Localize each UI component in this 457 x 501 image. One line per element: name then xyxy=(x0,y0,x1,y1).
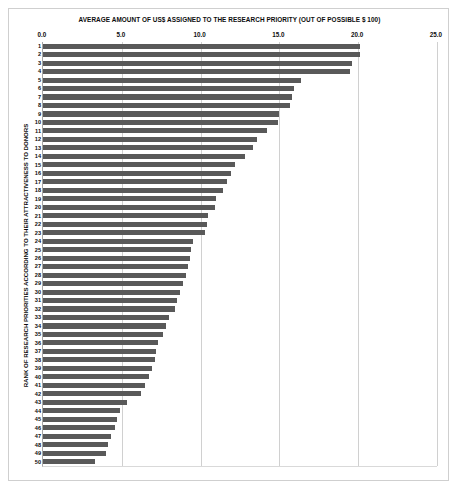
y-tick-label: 14 xyxy=(12,152,41,160)
bar xyxy=(43,349,156,354)
y-tick-label: 11 xyxy=(12,127,41,135)
y-tick-label: 32 xyxy=(12,305,41,313)
bar xyxy=(43,128,267,133)
x-tick-label: 15.0 xyxy=(272,31,284,38)
y-tick-label: 17 xyxy=(12,178,41,186)
bar xyxy=(43,290,180,295)
bar xyxy=(43,374,149,379)
y-tick-label: 6 xyxy=(12,84,41,92)
bar-row xyxy=(43,322,437,330)
plot-area: 1234567891011121314151617181920212223242… xyxy=(42,42,437,467)
y-tick-label: 46 xyxy=(12,424,41,432)
bar xyxy=(43,52,360,57)
bar xyxy=(43,94,292,99)
bar-row xyxy=(43,279,437,287)
bar xyxy=(43,332,163,337)
y-tick-label: 23 xyxy=(12,229,41,237)
bar xyxy=(43,162,235,167)
y-tick-label: 8 xyxy=(12,101,41,109)
bar-row xyxy=(43,135,437,143)
y-tick-label: 15 xyxy=(12,161,41,169)
y-tick-label: 12 xyxy=(12,135,41,143)
bar-row xyxy=(43,458,437,466)
y-tick-label: 42 xyxy=(12,390,41,398)
bar-row xyxy=(43,364,437,372)
bar-row xyxy=(43,415,437,423)
bar xyxy=(43,230,205,235)
bar-row xyxy=(43,195,437,203)
bar xyxy=(43,69,350,74)
bar xyxy=(43,408,120,413)
y-tick-label: 19 xyxy=(12,195,41,203)
y-tick-label: 49 xyxy=(12,449,41,457)
bar xyxy=(43,78,301,83)
y-tick-label: 5 xyxy=(12,76,41,84)
y-tick-label: 18 xyxy=(12,186,41,194)
bar xyxy=(43,417,117,422)
bar xyxy=(43,247,191,252)
bar-row xyxy=(43,59,437,67)
bar-row xyxy=(43,449,437,457)
y-tick-label: 34 xyxy=(12,322,41,330)
bar xyxy=(43,86,294,91)
y-tick-label: 7 xyxy=(12,93,41,101)
bar-row xyxy=(43,432,437,440)
bar xyxy=(43,213,208,218)
y-tick-label: 40 xyxy=(12,373,41,381)
bar-row xyxy=(43,67,437,75)
y-tick-label: 27 xyxy=(12,262,41,270)
y-tick-label: 43 xyxy=(12,398,41,406)
bar-row xyxy=(43,330,437,338)
bar-row xyxy=(43,144,437,152)
bar xyxy=(43,44,360,49)
chart-title: AVERAGE AMOUNT OF US$ ASSIGNED TO THE RE… xyxy=(9,16,450,23)
bars-layer xyxy=(43,42,437,466)
y-axis-tick-labels: 1234567891011121314151617181920212223242… xyxy=(12,42,41,466)
bar xyxy=(43,434,111,439)
x-axis-tick-labels: 0.05.010.015.020.025.0 xyxy=(9,31,450,41)
bar-row xyxy=(43,76,437,84)
bar xyxy=(43,222,207,227)
bar xyxy=(43,188,223,193)
y-tick-label: 13 xyxy=(12,144,41,152)
bar-row xyxy=(43,424,437,432)
x-tick-label: 5.0 xyxy=(116,31,125,38)
bar-row xyxy=(43,339,437,347)
y-tick-label: 44 xyxy=(12,407,41,415)
y-tick-label: 33 xyxy=(12,313,41,321)
bar xyxy=(43,239,193,244)
y-tick-label: 1 xyxy=(12,42,41,50)
y-tick-label: 3 xyxy=(12,59,41,67)
bar-row xyxy=(43,237,437,245)
bar-row xyxy=(43,152,437,160)
y-tick-label: 21 xyxy=(12,212,41,220)
bar-row xyxy=(43,271,437,279)
y-tick-label: 22 xyxy=(12,220,41,228)
y-tick-label: 38 xyxy=(12,356,41,364)
bar-row xyxy=(43,347,437,355)
y-tick-label: 20 xyxy=(12,203,41,211)
bar-row xyxy=(43,288,437,296)
y-tick-label: 48 xyxy=(12,441,41,449)
bar-row xyxy=(43,381,437,389)
bar xyxy=(43,366,152,371)
x-tick-label: 25.0 xyxy=(430,31,442,38)
bar xyxy=(43,425,115,430)
bar-row xyxy=(43,178,437,186)
y-tick-label: 29 xyxy=(12,279,41,287)
bar xyxy=(43,323,166,328)
y-tick-label: 2 xyxy=(12,50,41,58)
bar xyxy=(43,171,231,176)
bar xyxy=(43,179,227,184)
bar-row xyxy=(43,390,437,398)
bar xyxy=(43,281,183,286)
bar-row xyxy=(43,118,437,126)
y-tick-label: 30 xyxy=(12,288,41,296)
bar-row xyxy=(43,203,437,211)
bar-row xyxy=(43,127,437,135)
bar-row xyxy=(43,441,437,449)
x-tick-label: 20.0 xyxy=(351,31,363,38)
bar-row xyxy=(43,93,437,101)
y-tick-label: 31 xyxy=(12,296,41,304)
bar xyxy=(43,315,169,320)
